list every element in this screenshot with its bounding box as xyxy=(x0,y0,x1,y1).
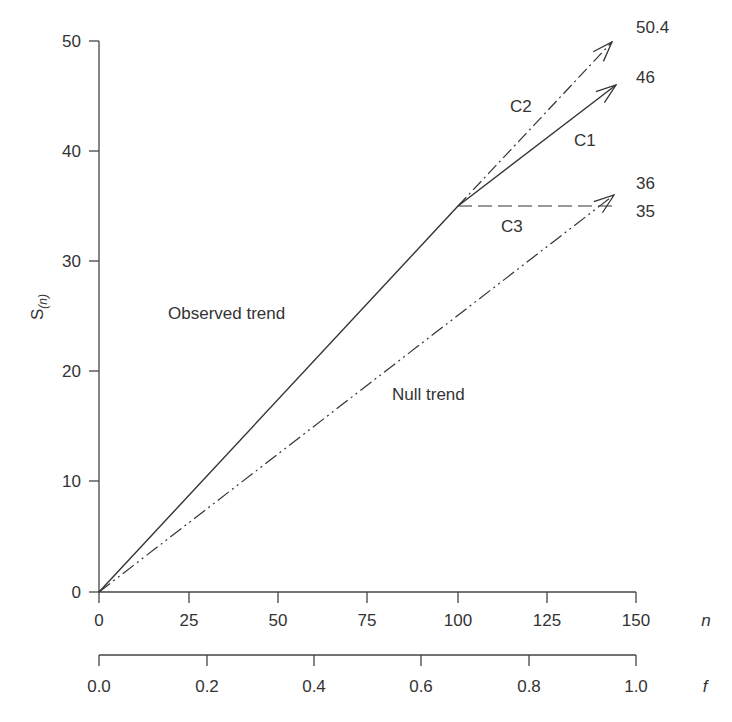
y-axis-label: S(n) xyxy=(28,294,50,320)
observed-trend-label: Observed trend xyxy=(168,304,285,323)
y-tick-10: 10 xyxy=(62,472,81,491)
x-axis-n: 0 25 50 75 100 125 150 n xyxy=(94,592,710,630)
x-tick-50: 50 xyxy=(269,611,288,630)
f-tick-0.0: 0.0 xyxy=(87,677,111,696)
x-tick-100: 100 xyxy=(444,611,472,630)
y-axis-label-sub: (n) xyxy=(36,294,50,309)
end-value-null: 36 xyxy=(636,174,655,193)
y-tick-30: 30 xyxy=(62,252,81,271)
y-tick-20: 20 xyxy=(62,362,81,381)
y-axis: 50 40 30 20 10 0 S(n) xyxy=(28,32,99,602)
x-axis-label-f: f xyxy=(703,677,710,696)
end-value-c2: 50.4 xyxy=(636,18,669,37)
f-tick-0.4: 0.4 xyxy=(302,677,326,696)
null-trend-line xyxy=(99,195,614,592)
c3-label: C3 xyxy=(501,217,523,236)
chart: 50 40 30 20 10 0 S(n) 0 25 50 75 100 125… xyxy=(0,0,732,722)
x-tick-25: 25 xyxy=(180,611,199,630)
x-tick-125: 125 xyxy=(533,611,561,630)
x-tick-0: 0 xyxy=(94,611,103,630)
null-trend-label: Null trend xyxy=(392,385,465,404)
y-tick-50: 50 xyxy=(62,32,81,51)
f-tick-0.6: 0.6 xyxy=(409,677,433,696)
f-tick-1.0: 1.0 xyxy=(624,677,648,696)
y-tick-0: 0 xyxy=(72,583,81,602)
x-axis-label-n: n xyxy=(701,611,710,630)
y-axis-label-main: S xyxy=(28,309,47,320)
end-value-c1: 46 xyxy=(636,68,655,87)
x-tick-75: 75 xyxy=(358,611,377,630)
x-tick-150: 150 xyxy=(622,611,650,630)
c2-label: C2 xyxy=(510,97,532,116)
y-tick-40: 40 xyxy=(62,142,81,161)
f-tick-0.2: 0.2 xyxy=(195,677,219,696)
svg-text:S(n): S(n) xyxy=(28,294,50,320)
end-value-c3: 35 xyxy=(636,202,655,221)
f-tick-0.8: 0.8 xyxy=(517,677,541,696)
c2-line xyxy=(458,42,612,206)
c1-label: C1 xyxy=(574,131,596,150)
x-axis-f: 0.0 0.2 0.4 0.6 0.8 1.0 f xyxy=(87,655,709,696)
